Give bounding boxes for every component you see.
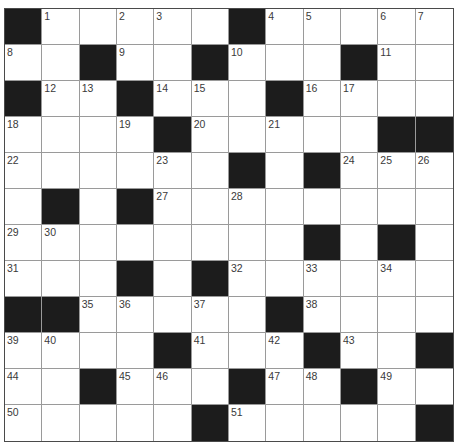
letter-cell[interactable] xyxy=(192,189,229,225)
letter-cell[interactable] xyxy=(42,369,79,405)
letter-cell[interactable]: 18 xyxy=(5,117,42,153)
letter-cell[interactable]: 4 xyxy=(266,9,303,45)
letter-cell[interactable] xyxy=(266,189,303,225)
letter-cell[interactable] xyxy=(80,9,117,45)
letter-cell[interactable]: 36 xyxy=(117,297,154,333)
letter-cell[interactable]: 28 xyxy=(229,189,266,225)
letter-cell[interactable]: 34 xyxy=(378,261,415,297)
letter-cell[interactable]: 23 xyxy=(154,153,191,189)
letter-cell[interactable] xyxy=(5,189,42,225)
letter-cell[interactable] xyxy=(80,225,117,261)
letter-cell[interactable] xyxy=(80,405,117,441)
letter-cell[interactable]: 16 xyxy=(304,81,341,117)
letter-cell[interactable]: 33 xyxy=(304,261,341,297)
letter-cell[interactable] xyxy=(192,369,229,405)
letter-cell[interactable]: 1 xyxy=(42,9,79,45)
letter-cell[interactable] xyxy=(229,117,266,153)
letter-cell[interactable]: 8 xyxy=(5,45,42,81)
letter-cell[interactable] xyxy=(80,333,117,369)
letter-cell[interactable]: 11 xyxy=(378,45,415,81)
letter-cell[interactable] xyxy=(341,9,378,45)
letter-cell[interactable]: 17 xyxy=(341,81,378,117)
letter-cell[interactable]: 38 xyxy=(304,297,341,333)
letter-cell[interactable]: 30 xyxy=(42,225,79,261)
letter-cell[interactable] xyxy=(341,405,378,441)
letter-cell[interactable] xyxy=(378,405,415,441)
letter-cell[interactable]: 20 xyxy=(192,117,229,153)
letter-cell[interactable] xyxy=(192,9,229,45)
letter-cell[interactable]: 39 xyxy=(5,333,42,369)
letter-cell[interactable]: 6 xyxy=(378,9,415,45)
letter-cell[interactable] xyxy=(304,189,341,225)
letter-cell[interactable]: 7 xyxy=(416,9,453,45)
letter-cell[interactable] xyxy=(80,189,117,225)
letter-cell[interactable] xyxy=(154,225,191,261)
letter-cell[interactable] xyxy=(80,153,117,189)
letter-cell[interactable] xyxy=(117,333,154,369)
letter-cell[interactable] xyxy=(378,297,415,333)
letter-cell[interactable] xyxy=(416,81,453,117)
letter-cell[interactable]: 5 xyxy=(304,9,341,45)
letter-cell[interactable] xyxy=(416,261,453,297)
letter-cell[interactable]: 2 xyxy=(117,9,154,45)
letter-cell[interactable] xyxy=(42,153,79,189)
letter-cell[interactable]: 10 xyxy=(229,45,266,81)
letter-cell[interactable]: 32 xyxy=(229,261,266,297)
letter-cell[interactable]: 48 xyxy=(304,369,341,405)
letter-cell[interactable] xyxy=(341,225,378,261)
letter-cell[interactable]: 37 xyxy=(192,297,229,333)
letter-cell[interactable] xyxy=(154,45,191,81)
letter-cell[interactable]: 41 xyxy=(192,333,229,369)
letter-cell[interactable] xyxy=(266,261,303,297)
letter-cell[interactable]: 44 xyxy=(5,369,42,405)
letter-cell[interactable]: 19 xyxy=(117,117,154,153)
letter-cell[interactable]: 51 xyxy=(229,405,266,441)
letter-cell[interactable] xyxy=(42,405,79,441)
letter-cell[interactable] xyxy=(341,261,378,297)
letter-cell[interactable] xyxy=(266,153,303,189)
letter-cell[interactable] xyxy=(341,189,378,225)
letter-cell[interactable] xyxy=(229,333,266,369)
letter-cell[interactable]: 29 xyxy=(5,225,42,261)
letter-cell[interactable] xyxy=(304,45,341,81)
letter-cell[interactable] xyxy=(117,225,154,261)
letter-cell[interactable] xyxy=(117,405,154,441)
letter-cell[interactable] xyxy=(304,117,341,153)
letter-cell[interactable] xyxy=(42,45,79,81)
letter-cell[interactable] xyxy=(341,297,378,333)
letter-cell[interactable]: 46 xyxy=(154,369,191,405)
letter-cell[interactable] xyxy=(416,297,453,333)
letter-cell[interactable] xyxy=(42,117,79,153)
letter-cell[interactable]: 13 xyxy=(80,81,117,117)
letter-cell[interactable] xyxy=(266,225,303,261)
letter-cell[interactable] xyxy=(416,45,453,81)
letter-cell[interactable] xyxy=(416,225,453,261)
letter-cell[interactable] xyxy=(229,81,266,117)
letter-cell[interactable]: 22 xyxy=(5,153,42,189)
letter-cell[interactable]: 42 xyxy=(266,333,303,369)
letter-cell[interactable] xyxy=(229,297,266,333)
letter-cell[interactable]: 47 xyxy=(266,369,303,405)
letter-cell[interactable] xyxy=(42,261,79,297)
letter-cell[interactable] xyxy=(80,117,117,153)
letter-cell[interactable]: 40 xyxy=(42,333,79,369)
letter-cell[interactable] xyxy=(266,45,303,81)
letter-cell[interactable] xyxy=(192,153,229,189)
letter-cell[interactable] xyxy=(378,189,415,225)
letter-cell[interactable]: 25 xyxy=(378,153,415,189)
letter-cell[interactable]: 9 xyxy=(117,45,154,81)
letter-cell[interactable] xyxy=(416,369,453,405)
letter-cell[interactable] xyxy=(266,405,303,441)
letter-cell[interactable]: 43 xyxy=(341,333,378,369)
letter-cell[interactable] xyxy=(304,405,341,441)
letter-cell[interactable]: 50 xyxy=(5,405,42,441)
letter-cell[interactable] xyxy=(154,405,191,441)
letter-cell[interactable]: 24 xyxy=(341,153,378,189)
letter-cell[interactable]: 27 xyxy=(154,189,191,225)
letter-cell[interactable]: 45 xyxy=(117,369,154,405)
letter-cell[interactable]: 14 xyxy=(154,81,191,117)
letter-cell[interactable] xyxy=(80,261,117,297)
letter-cell[interactable] xyxy=(229,225,266,261)
letter-cell[interactable]: 12 xyxy=(42,81,79,117)
letter-cell[interactable] xyxy=(154,261,191,297)
